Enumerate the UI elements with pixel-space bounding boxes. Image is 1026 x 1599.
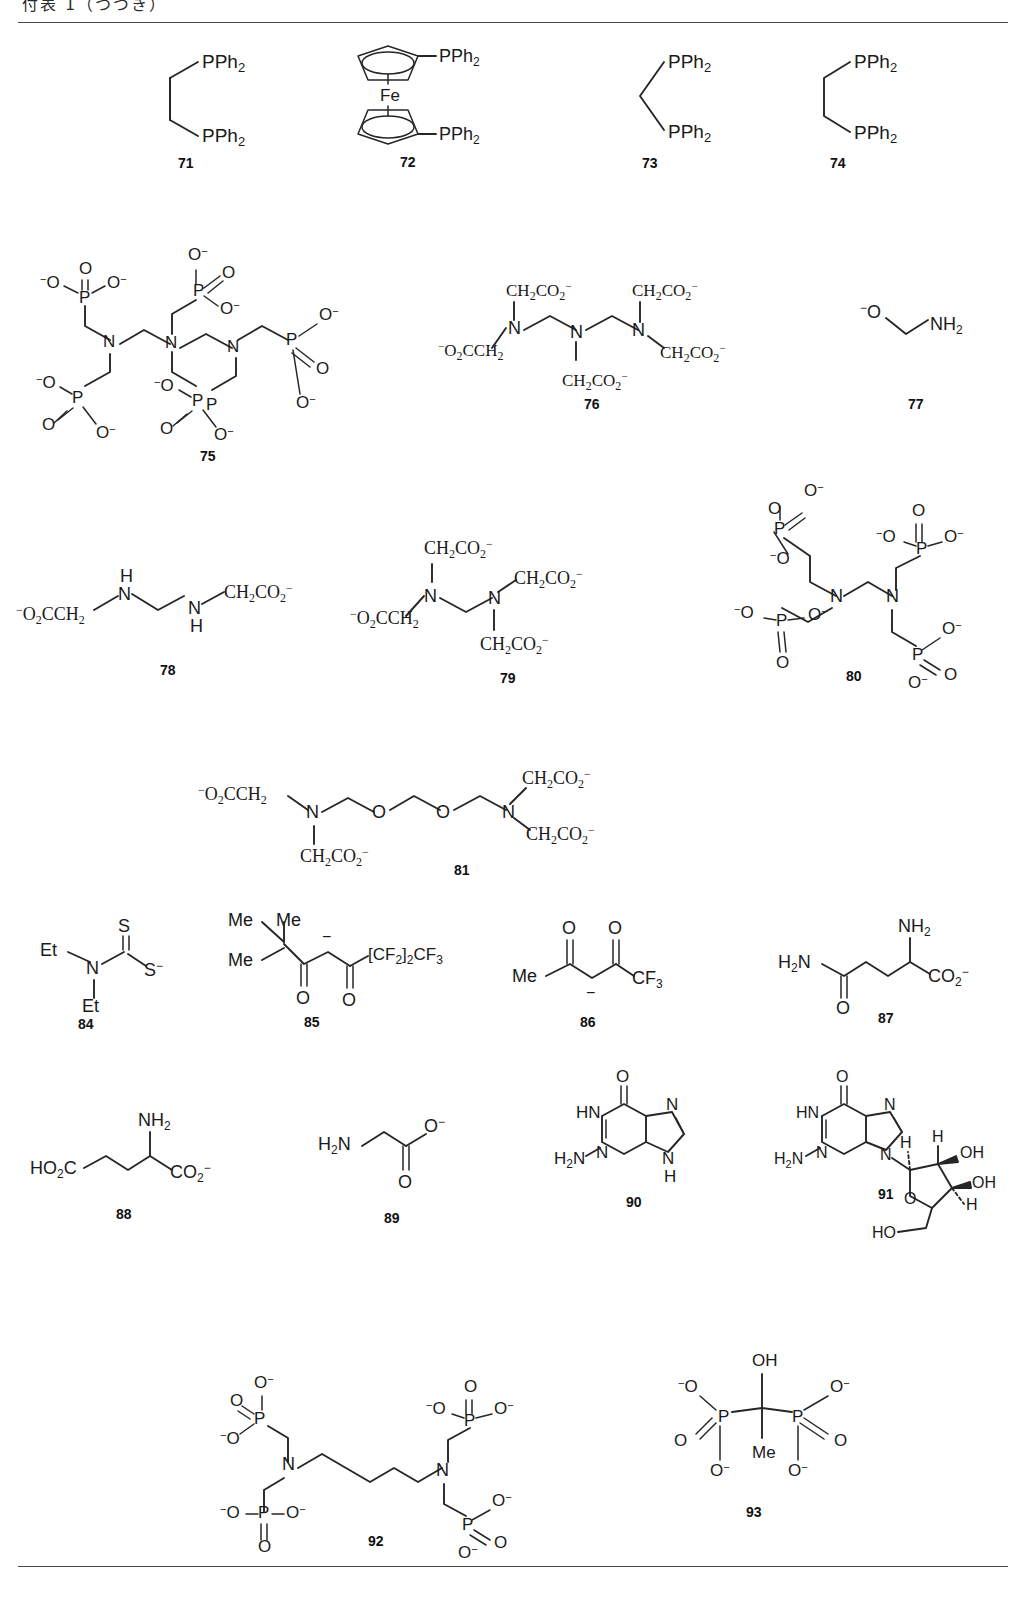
structure-80-drawing: O− P O −O N P −O O− O N P −O xyxy=(700,468,1020,688)
label-ch2co2: CH2CO2− xyxy=(506,280,571,303)
compound-label-79: 79 xyxy=(500,670,516,686)
label-p: P xyxy=(72,388,83,407)
label-me: Me xyxy=(228,950,253,970)
structure-85: Me Me Me O O − [CF2]2CF3 85 xyxy=(228,898,488,1008)
label-h: H xyxy=(932,1128,944,1145)
label-o-minus: O− xyxy=(494,1399,514,1418)
label-pph2-top: PPh2 xyxy=(854,51,897,75)
label-ho: HO xyxy=(872,1224,896,1241)
label-o-double: O xyxy=(836,998,850,1018)
label-o-minus: O− xyxy=(188,245,208,264)
label-o-minus: O− xyxy=(458,1543,478,1562)
label-me: Me xyxy=(228,910,253,930)
label-n: N xyxy=(816,1144,828,1161)
structure-87: H2N O NH2 CO2− 87 xyxy=(778,894,988,1009)
label-oh: OH xyxy=(752,1351,778,1370)
label-ch2co2: CH2CO2− xyxy=(514,567,583,591)
document-page: 付表 1（つづき） PPh2 PPh2 71 Fe PPh xyxy=(0,0,1026,1599)
label-n: N xyxy=(662,1149,674,1168)
label-h2n: H2N xyxy=(774,1150,803,1170)
structure-75-drawing: −O P O O− N P −O O O− N P xyxy=(24,248,404,448)
label-o-minus: O− xyxy=(788,1461,808,1480)
compound-label-81: 81 xyxy=(454,862,470,878)
label-o-double: O xyxy=(834,1431,847,1450)
structure-84-drawing: Et N Et S S− xyxy=(36,900,196,1010)
label-p: P xyxy=(912,645,923,664)
label-o-minus: O− xyxy=(944,527,964,546)
label-p: P xyxy=(193,281,204,300)
label-pph2-top: PPh2 xyxy=(668,51,711,75)
label-pph2-top: PPh2 xyxy=(202,51,245,75)
label-ch2co2: CH2CO2− xyxy=(480,633,549,657)
label-ch2co2: CH2CO2− xyxy=(632,280,697,303)
label-o2cch2: −O2CCH2 xyxy=(198,783,267,807)
label-n: N xyxy=(880,1146,892,1163)
compound-label-74: 74 xyxy=(830,155,846,171)
label-o-minus: O− xyxy=(424,1115,445,1136)
compound-label-75: 75 xyxy=(200,448,216,464)
label-nh2: NH2 xyxy=(898,916,931,939)
label-n: N xyxy=(282,1454,295,1474)
label-o-minus: −O xyxy=(154,376,174,395)
label-s-minus: S− xyxy=(144,959,163,980)
label-o-double: O xyxy=(616,1067,629,1086)
label-ch2co2: CH2CO2− xyxy=(660,342,725,365)
compound-label-72: 72 xyxy=(400,154,416,170)
label-o-double: O xyxy=(316,359,329,378)
label-n: N xyxy=(86,958,99,978)
label-nh2: NH2 xyxy=(930,314,963,337)
structure-76: N −O2CCH2 CH2CO2− N CH2CO2− N CH2CO2− CH… xyxy=(436,268,766,398)
structure-74-drawing: PPh2 PPh2 xyxy=(800,40,970,150)
label-negative-charge: − xyxy=(586,984,595,1001)
compound-label-86: 86 xyxy=(580,1014,596,1030)
label-o2cch2: −O2CCH2 xyxy=(16,603,85,627)
label-o-minus: −O xyxy=(426,1399,446,1418)
label-ch2co2: CH2CO2− xyxy=(224,581,293,605)
compound-label-71: 71 xyxy=(178,155,194,171)
structure-72: Fe PPh2 PPh2 72 xyxy=(340,36,520,154)
label-o: O xyxy=(436,802,450,822)
compound-label-84: 84 xyxy=(78,1016,94,1032)
structure-88: HO2C NH2 CO2− 88 xyxy=(30,1098,240,1198)
label-o-ring: O xyxy=(904,1190,916,1207)
label-p: P xyxy=(206,395,217,414)
label-o-minus: O− xyxy=(96,423,116,442)
structure-79-drawing: CH2CO2− N −O2CCH2 N CH2CO2− CH2CO2− xyxy=(348,522,668,667)
label-n: N xyxy=(884,1096,896,1113)
label-o-double: O xyxy=(230,1391,243,1410)
label-co2-minus: CO2− xyxy=(170,1161,211,1185)
structure-71-drawing: PPh2 PPh2 xyxy=(150,40,310,150)
label-o-double: O xyxy=(562,918,576,938)
label-pph2-bottom: PPh2 xyxy=(439,124,480,147)
structure-89: H2N O− O 89 xyxy=(318,1098,488,1203)
label-o-double: O xyxy=(944,665,957,684)
structure-89-drawing: H2N O− O xyxy=(318,1098,488,1203)
structure-84: Et N Et S S− 84 xyxy=(36,900,196,1010)
label-fe: Fe xyxy=(380,86,400,105)
label-o-double: O xyxy=(398,1172,412,1192)
label-n: N xyxy=(424,586,437,606)
label-et-bottom: Et xyxy=(82,996,99,1016)
structure-81-drawing: −O2CCH2 N CH2CO2− O O N CH2CO2− CH2CO2− xyxy=(196,748,816,858)
label-pph2-top: PPh2 xyxy=(439,46,480,69)
structure-91: O HN N H2N N N O OH OH H H xyxy=(786,1058,1016,1238)
structure-79: CH2CO2− N −O2CCH2 N CH2CO2− CH2CO2− 79 xyxy=(348,522,668,667)
label-hn: HN xyxy=(576,1103,601,1122)
label-n: N xyxy=(570,322,583,342)
label-o-double: O xyxy=(912,501,925,520)
label-oh: OH xyxy=(960,1144,984,1161)
compound-label-73: 73 xyxy=(642,155,658,171)
label-me: Me xyxy=(276,910,301,930)
label-me: Me xyxy=(512,966,537,986)
label-n: N xyxy=(830,586,843,606)
label-pph2-bottom: PPh2 xyxy=(668,121,711,145)
structure-93: OH Me P −O O O− P O− O O− 93 xyxy=(648,1330,878,1500)
label-o-minus: O− xyxy=(107,273,127,292)
label-oh: OH xyxy=(972,1174,996,1191)
label-n: N xyxy=(632,320,645,340)
label-negative-charge: − xyxy=(322,928,331,945)
label-hn: HN xyxy=(796,1104,819,1121)
structure-75: −O P O O− N P −O O O− N P xyxy=(24,248,404,448)
label-o-double: O xyxy=(258,1537,271,1556)
label-o-double: O xyxy=(494,1533,507,1552)
